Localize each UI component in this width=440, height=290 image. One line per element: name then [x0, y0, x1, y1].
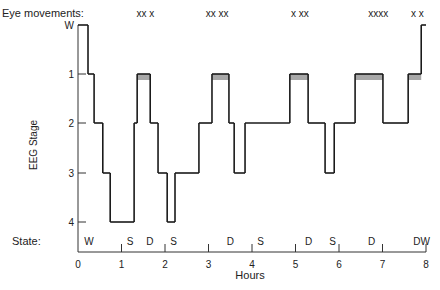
state-label-s: S: [170, 236, 177, 247]
x-tick-label: 5: [293, 259, 299, 270]
state-label-dw: DW: [413, 236, 430, 247]
rem-period-fill: [290, 74, 308, 80]
x-tick-label: 8: [423, 259, 429, 270]
x-tick-label: 2: [162, 259, 168, 270]
x-axis-title: Hours: [235, 269, 265, 281]
eye-movement-marker: x xx: [291, 8, 309, 19]
state-label-s: S: [127, 236, 134, 247]
x-tick-label: 3: [206, 259, 212, 270]
state-label-d: D: [227, 236, 234, 247]
hypnogram-trace: [78, 25, 426, 222]
x-tick-label: 0: [75, 259, 81, 270]
y-tick-label: 1: [68, 69, 74, 80]
state-label-d: D: [146, 236, 153, 247]
state-label-d: D: [368, 236, 375, 247]
eye-movements-label: Eye movements:: [2, 7, 84, 19]
state-label: State:: [12, 235, 41, 247]
state-label-d: D: [305, 236, 312, 247]
rem-fills: [137, 74, 421, 80]
eye-movement-marker: xx x: [137, 8, 155, 19]
axes: W1234012345678: [65, 20, 430, 270]
eye-movement-marker: xx xx: [206, 8, 229, 19]
x-tick-label: 6: [336, 259, 342, 270]
state-label-s: S: [329, 236, 336, 247]
rem-period-fill: [408, 74, 421, 80]
eye-movement-marker: x x: [411, 8, 424, 19]
x-tick-label: 4: [249, 259, 255, 270]
y-tick-label: 2: [68, 118, 74, 129]
rem-period-fill: [212, 74, 229, 80]
y-axis-title: EEG Stage: [28, 120, 39, 170]
hypnogram-chart: Eye movements: EEG Stage State: Hours W1…: [0, 0, 440, 290]
y-tick-label: 3: [68, 168, 74, 179]
x-tick-label: 1: [119, 259, 125, 270]
state-label-w: W: [84, 236, 94, 247]
x-tick-label: 7: [380, 259, 386, 270]
rem-period-fill: [355, 74, 383, 80]
rem-period-fill: [137, 74, 150, 80]
y-tick-label: W: [65, 20, 75, 31]
y-tick-label: 4: [68, 217, 74, 228]
eye-movement-marker: xxxx: [368, 8, 388, 19]
state-label-s: S: [257, 236, 264, 247]
annotations: WSDSDSDSDDWxx xxx xxx xxxxxxx x: [84, 8, 430, 247]
